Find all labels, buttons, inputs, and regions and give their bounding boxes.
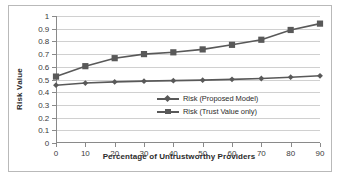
x-tick (56, 143, 57, 147)
square-data-point (82, 63, 88, 69)
square-data-point (317, 21, 323, 27)
chart-legend: Risk (Proposed Model) Risk (Trust Value … (157, 92, 258, 118)
x-tick (173, 143, 174, 147)
chart-frame: Risk Value 00.10.20.30.40.50.60.70.80.91… (8, 5, 332, 172)
x-tick (115, 143, 116, 147)
square-data-point (288, 27, 294, 33)
square-data-point (112, 55, 118, 61)
diamond-data-point (53, 82, 59, 88)
diamond-marker-icon (157, 94, 179, 103)
square-marker-icon (157, 107, 179, 116)
legend-item-trust-value-only: Risk (Trust Value only) (157, 105, 258, 118)
square-data-point (229, 42, 235, 48)
x-tick-label: 90 (316, 149, 325, 158)
x-tick (261, 143, 262, 147)
x-axis-title: Percentage of Untrustworthy Providers (47, 152, 311, 161)
square-data-point (141, 51, 147, 57)
series-line (56, 24, 320, 77)
square-data-point (258, 37, 264, 43)
diamond-data-point (141, 78, 147, 84)
diamond-data-point (317, 73, 323, 79)
y-tick-label: 0.6 (38, 62, 49, 71)
diamond-data-point (200, 77, 206, 83)
diamond-data-point (288, 74, 294, 80)
legend-label: Risk (Proposed Model) (183, 94, 258, 103)
y-tick-label: 0.3 (38, 100, 49, 109)
diamond-data-point (258, 76, 264, 82)
x-tick (85, 143, 86, 147)
x-tick (203, 143, 204, 147)
diamond-data-point (82, 80, 88, 86)
series-line (56, 76, 320, 85)
y-tick-label: 0.1 (38, 126, 49, 135)
plot-area: 00.10.20.30.40.50.60.70.80.91 0102030405… (56, 16, 320, 143)
diamond-data-point (112, 79, 118, 85)
y-tick-label: 0.5 (38, 75, 49, 84)
diamond-data-point (170, 78, 176, 84)
square-data-point (53, 73, 59, 79)
y-tick-label: 0.2 (38, 113, 49, 122)
x-tick (144, 143, 145, 147)
y-tick-label: 0.9 (38, 24, 49, 33)
square-data-point (170, 49, 176, 55)
legend-item-proposed-model: Risk (Proposed Model) (157, 92, 258, 105)
y-tick-label: 0 (45, 139, 49, 148)
y-tick-label: 0.4 (38, 88, 49, 97)
x-tick (232, 143, 233, 147)
y-tick-label: 1 (45, 12, 49, 21)
series-plot (56, 16, 320, 143)
y-axis-title: Risk Value (15, 67, 24, 109)
y-tick-label: 0.7 (38, 50, 49, 59)
square-data-point (200, 46, 206, 52)
x-tick (320, 143, 321, 147)
legend-label: Risk (Trust Value only) (183, 107, 257, 116)
diamond-data-point (229, 76, 235, 82)
x-tick (291, 143, 292, 147)
y-tick-label: 0.8 (38, 37, 49, 46)
